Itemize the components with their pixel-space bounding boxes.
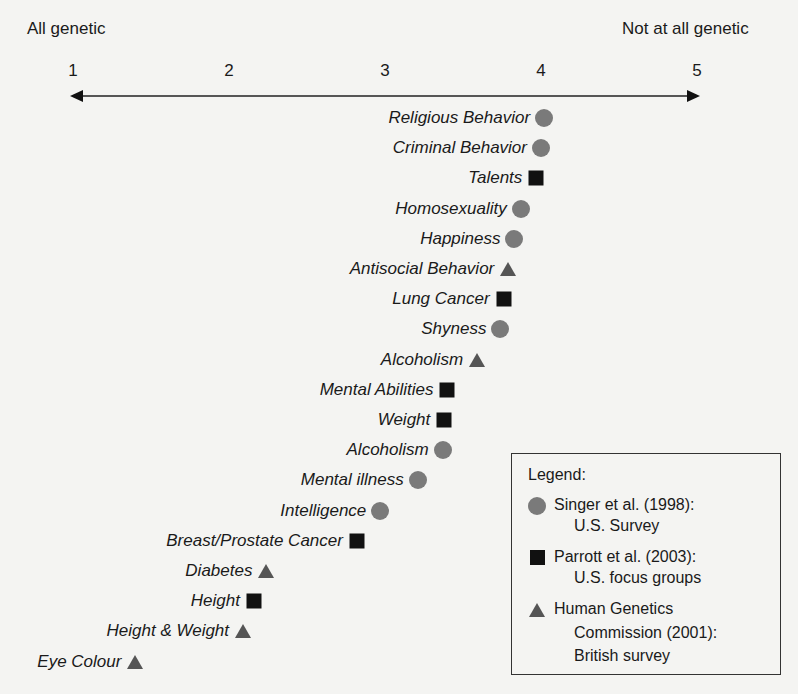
square-marker-icon xyxy=(437,413,452,428)
circle-marker-icon xyxy=(535,109,553,127)
row-label: Homosexuality xyxy=(395,199,507,219)
circle-marker-icon xyxy=(409,471,427,489)
row-label: Lung Cancer xyxy=(392,289,489,309)
row-label: Eye Colour xyxy=(37,652,121,672)
triangle-marker-icon xyxy=(469,353,485,367)
square-marker-icon xyxy=(246,594,261,609)
triangle-marker-icon xyxy=(500,262,516,276)
circle-marker-icon xyxy=(512,200,530,218)
row-label: Diabetes xyxy=(185,561,252,581)
row-label: Shyness xyxy=(421,319,486,339)
row-label: Height xyxy=(191,591,240,611)
legend: Legend: Singer et al. (1998): U.S. Surve… xyxy=(511,453,781,675)
triangle-marker-icon xyxy=(258,564,274,578)
circle-marker-icon xyxy=(434,441,452,459)
legend-title: Legend: xyxy=(528,464,586,485)
triangle-marker-icon xyxy=(235,624,251,638)
row-label: Alcoholism xyxy=(347,440,429,460)
row-label: Talents xyxy=(468,168,522,188)
row-label: Happiness xyxy=(420,229,500,249)
square-marker-icon xyxy=(349,533,364,548)
triangle-marker-icon xyxy=(127,655,143,669)
row-label: Alcoholism xyxy=(381,350,463,370)
square-marker-icon xyxy=(440,382,455,397)
circle-marker-icon xyxy=(371,502,389,520)
row-label: Breast/Prostate Cancer xyxy=(166,531,343,551)
row-label: Height & Weight xyxy=(107,621,230,641)
circle-marker-icon xyxy=(532,139,550,157)
circle-marker-icon xyxy=(528,497,546,515)
row-label: Mental illness xyxy=(301,470,404,490)
square-marker-icon xyxy=(530,550,545,565)
circle-marker-icon xyxy=(491,320,509,338)
triangle-marker-icon xyxy=(529,603,545,617)
row-label: Religious Behavior xyxy=(388,108,530,128)
square-marker-icon xyxy=(529,171,544,186)
row-label: Criminal Behavior xyxy=(393,138,527,158)
row-label: Mental Abilities xyxy=(320,380,434,400)
circle-marker-icon xyxy=(505,230,523,248)
row-label: Intelligence xyxy=(280,501,366,521)
row-label: Weight xyxy=(378,410,431,430)
square-marker-icon xyxy=(496,292,511,307)
double-arrow-axis xyxy=(0,0,798,110)
row-label: Antisocial Behavior xyxy=(350,259,495,279)
